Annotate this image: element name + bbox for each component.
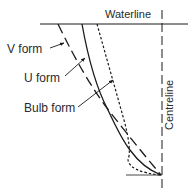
u-form-label: U form (24, 71, 60, 85)
bulb-form-label: Bulb form (24, 101, 75, 115)
waterline-label: Waterline (105, 8, 151, 20)
bulb-form-arrow (78, 80, 113, 107)
u-form-curve (82, 24, 161, 175)
v-form-arrow (50, 43, 64, 48)
v-form-label: V form (7, 42, 42, 56)
v-form-curve (58, 24, 161, 175)
hull-section-diagram: Waterline Centreline V form U form Bulb … (0, 0, 194, 194)
bulb-form-curve (97, 24, 161, 175)
u-form-arrow (65, 58, 85, 76)
centreline-label: Centreline (163, 80, 175, 130)
